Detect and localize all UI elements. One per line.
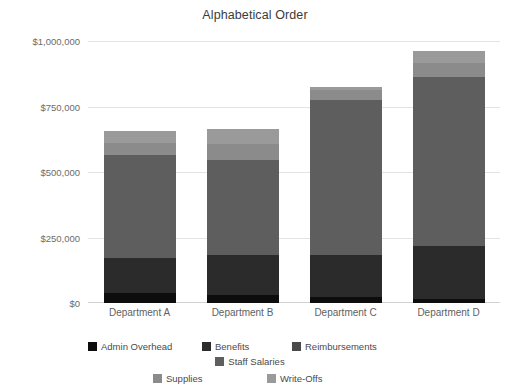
x-axis-label: Department A [88, 307, 191, 318]
legend-label: Supplies [166, 373, 202, 384]
bar-column[interactable] [397, 41, 500, 303]
bar-segment[interactable] [104, 131, 176, 143]
chart-legend: Admin OverheadBenefitsReimbursementsStaf… [70, 340, 440, 385]
legend-swatch-icon [153, 374, 162, 383]
bar-segment[interactable] [104, 293, 176, 303]
legend-label: Reimbursements [305, 341, 377, 352]
bar-segment[interactable] [104, 155, 176, 258]
legend-item[interactable]: Staff Salaries [215, 355, 284, 368]
bar-segment[interactable] [413, 63, 485, 77]
x-axis-label: Department B [191, 307, 294, 318]
stacked-bar[interactable] [104, 131, 176, 303]
y-axis-tick-label: $1,000,000 [2, 36, 80, 47]
bar-segment[interactable] [413, 246, 485, 299]
bar-segment[interactable] [207, 255, 279, 295]
legend-item[interactable]: Benefits [202, 340, 282, 353]
plot-area [88, 41, 500, 303]
legend-label: Write-Offs [280, 373, 322, 384]
legend-swatch-icon [88, 342, 97, 351]
bar-column[interactable] [88, 41, 191, 303]
x-axis-label: Department D [397, 307, 500, 318]
bar-segment[interactable] [104, 258, 176, 293]
legend-swatch-icon [215, 357, 224, 366]
bar-segment[interactable] [413, 299, 485, 303]
y-axis-tick-label: $0 [2, 298, 80, 309]
legend-label: Staff Salaries [228, 356, 284, 367]
bar-segment[interactable] [207, 160, 279, 255]
y-axis-tick-label: $750,000 [2, 101, 80, 112]
legend-item[interactable]: Write-Offs [267, 372, 347, 385]
bar-segment[interactable] [104, 143, 176, 155]
bar-segment[interactable] [413, 77, 485, 246]
chart-title: Alphabetical Order [0, 8, 510, 22]
bar-segment[interactable] [310, 100, 382, 255]
bar-segment[interactable] [207, 129, 279, 144]
x-axis-label: Department C [294, 307, 397, 318]
stacked-bar[interactable] [310, 87, 382, 303]
bar-column[interactable] [294, 41, 397, 303]
legend-item[interactable]: Reimbursements [292, 340, 412, 353]
stacked-bar[interactable] [413, 51, 485, 303]
legend-swatch-icon [267, 374, 276, 383]
legend-label: Admin Overhead [101, 341, 172, 352]
bar-segment[interactable] [310, 297, 382, 303]
y-axis-tick-label: $500,000 [2, 167, 80, 178]
x-axis-labels: Department ADepartment BDepartment CDepa… [88, 307, 500, 318]
legend-label: Benefits [215, 341, 249, 352]
legend-swatch-icon [202, 342, 211, 351]
bar-segment[interactable] [207, 144, 279, 160]
legend-item[interactable]: Supplies [153, 372, 257, 385]
legend-item[interactable]: Admin Overhead [88, 340, 192, 353]
stacked-bar[interactable] [207, 129, 279, 303]
y-axis-tick-label: $250,000 [2, 232, 80, 243]
bar-group [88, 41, 500, 303]
legend-swatch-icon [292, 342, 301, 351]
bar-segment[interactable] [413, 51, 485, 63]
bar-segment[interactable] [310, 255, 382, 297]
bar-segment[interactable] [207, 295, 279, 303]
bar-column[interactable] [191, 41, 294, 303]
bar-segment[interactable] [310, 90, 382, 100]
